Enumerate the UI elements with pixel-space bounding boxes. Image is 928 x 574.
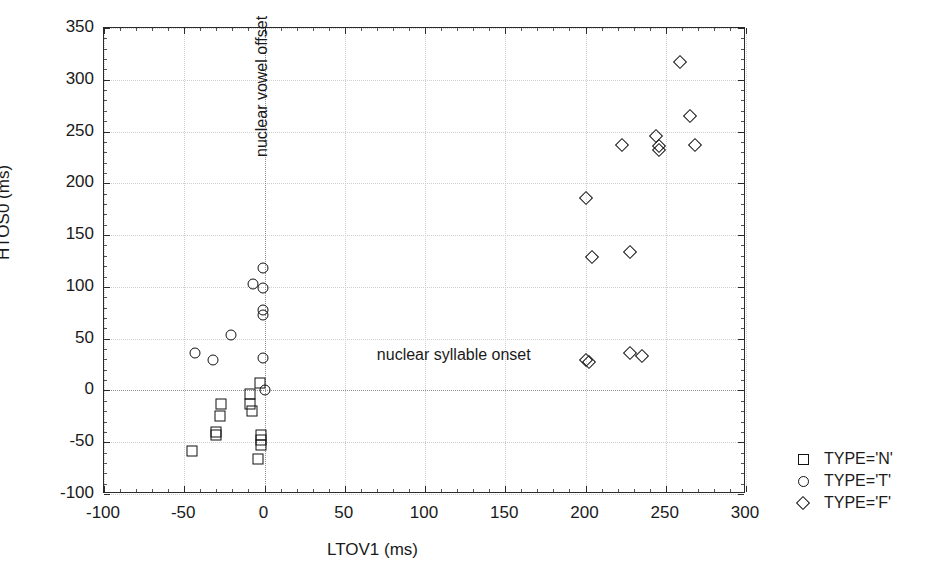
- x-axis-minor-tick-top: [457, 28, 458, 31]
- y-axis-minor-tick: [104, 453, 107, 454]
- y-tick-label: 0: [46, 379, 94, 399]
- data-point-diamond: [635, 349, 649, 363]
- y-tick-label: 50: [46, 328, 94, 348]
- x-axis-minor-tick: [313, 489, 314, 492]
- x-axis-minor-tick: [553, 489, 554, 492]
- y-axis-minor-tick-right: [741, 308, 744, 309]
- y-axis-minor-tick-right: [741, 111, 744, 112]
- gridline-horizontal: [104, 80, 744, 81]
- y-axis-minor-tick-right: [741, 370, 744, 371]
- x-axis-minor-tick: [281, 489, 282, 492]
- diamond-icon: [796, 496, 810, 510]
- x-axis-minor-tick-top: [200, 28, 201, 31]
- data-point-circle: [190, 348, 201, 359]
- x-axis-tick: [586, 486, 587, 492]
- x-axis-minor-tick: [714, 489, 715, 492]
- gridline-vertical: [586, 28, 587, 492]
- y-axis-minor-tick-right: [741, 328, 744, 329]
- y-axis-minor-tick-right: [741, 359, 744, 360]
- x-axis-minor-tick-top: [120, 28, 121, 31]
- y-axis-minor-tick: [104, 194, 107, 195]
- legend-marker-square-icon: [790, 454, 816, 465]
- y-axis-minor-tick: [104, 256, 107, 257]
- x-axis-minor-tick: [457, 489, 458, 492]
- legend-item: TYPE='N': [790, 448, 920, 470]
- y-tick-label: 100: [46, 276, 94, 296]
- y-axis-tick: [104, 339, 110, 340]
- x-tick-label: 200: [570, 503, 598, 523]
- x-axis-tick: [345, 486, 346, 492]
- x-axis-minor-tick-top: [168, 28, 169, 31]
- y-tick-label: 200: [46, 172, 94, 192]
- y-axis-minor-tick-right: [741, 266, 744, 267]
- y-axis-tick-right: [738, 390, 744, 391]
- x-axis-tick: [425, 486, 426, 492]
- y-axis-minor-tick-right: [741, 422, 744, 423]
- y-axis-tick: [104, 390, 110, 391]
- y-axis-minor-tick: [104, 100, 107, 101]
- data-point-circle: [257, 309, 268, 320]
- y-axis-minor-tick: [104, 308, 107, 309]
- y-axis-minor-tick: [104, 297, 107, 298]
- x-axis-minor-tick: [120, 489, 121, 492]
- x-axis-tick: [746, 486, 747, 492]
- x-axis-minor-tick: [361, 489, 362, 492]
- x-axis-minor-tick: [698, 489, 699, 492]
- y-axis-minor-tick: [104, 214, 107, 215]
- y-axis-minor-tick: [104, 484, 107, 485]
- legend-label: TYPE='N': [824, 450, 893, 468]
- legend-item: TYPE='T': [790, 470, 920, 492]
- y-tick-label: 350: [46, 17, 94, 37]
- x-axis-minor-tick-top: [329, 28, 330, 31]
- y-axis-tick-right: [738, 28, 744, 29]
- y-axis-minor-tick-right: [741, 225, 744, 226]
- x-axis-minor-tick: [297, 489, 298, 492]
- x-axis-minor-tick-top: [537, 28, 538, 31]
- x-axis-tick: [505, 486, 506, 492]
- y-axis-tick: [104, 494, 110, 495]
- x-axis-tick: [265, 486, 266, 492]
- y-axis-minor-tick-right: [741, 173, 744, 174]
- y-axis-tick: [104, 28, 110, 29]
- x-axis-minor-tick: [152, 489, 153, 492]
- y-axis-minor-tick: [104, 173, 107, 174]
- annotation-vertical: nuclear vowel offset: [253, 16, 271, 157]
- gridline-horizontal: [104, 494, 744, 495]
- x-axis-minor-tick-top: [152, 28, 153, 31]
- y-tick-label: 150: [46, 224, 94, 244]
- y-axis-minor-tick-right: [741, 163, 744, 164]
- y-axis-minor-tick: [104, 142, 107, 143]
- data-point-square: [246, 406, 257, 417]
- x-axis-minor-tick: [537, 489, 538, 492]
- x-axis-minor-tick-top: [569, 28, 570, 31]
- y-axis-minor-tick-right: [741, 256, 744, 257]
- x-axis-minor-tick: [730, 489, 731, 492]
- x-axis-minor-tick-top: [281, 28, 282, 31]
- gridline-vertical: [345, 28, 346, 492]
- legend-label: TYPE='T': [824, 472, 891, 490]
- x-axis-minor-tick-top: [489, 28, 490, 31]
- y-axis-minor-tick-right: [741, 204, 744, 205]
- legend-item: TYPE='F': [790, 492, 920, 514]
- data-point-square: [187, 445, 198, 456]
- data-point-diamond: [623, 245, 637, 259]
- x-axis-minor-tick: [473, 489, 474, 492]
- x-axis-tick-top: [746, 28, 747, 34]
- x-axis-minor-tick-top: [361, 28, 362, 31]
- y-axis-minor-tick-right: [741, 100, 744, 101]
- y-axis-minor-tick: [104, 90, 107, 91]
- x-axis-minor-tick: [634, 489, 635, 492]
- data-point-square: [216, 398, 227, 409]
- y-axis-minor-tick: [104, 401, 107, 402]
- y-tick-label: -100: [46, 483, 94, 503]
- x-axis-minor-tick-top: [313, 28, 314, 31]
- y-axis-minor-tick: [104, 463, 107, 464]
- y-axis-tick: [104, 80, 110, 81]
- data-point-circle: [257, 282, 268, 293]
- y-axis-minor-tick: [104, 359, 107, 360]
- x-axis-minor-tick-top: [248, 28, 249, 31]
- y-axis-minor-tick-right: [741, 38, 744, 39]
- x-tick-label: 0: [259, 503, 268, 523]
- x-axis-tick-top: [666, 28, 667, 34]
- y-axis-minor-tick-right: [741, 463, 744, 464]
